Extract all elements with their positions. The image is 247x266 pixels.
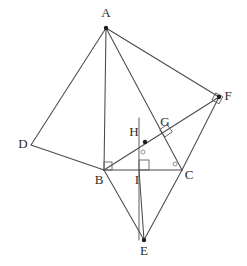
vertex-labels-group: ABCDEFGHI xyxy=(18,5,231,258)
segment-AF xyxy=(106,28,219,97)
vertex-label-F: F xyxy=(224,88,231,103)
vertex-label-E: E xyxy=(140,243,148,258)
geometry-figure: ABCDEFGHI xyxy=(0,0,247,266)
geometry-canvas: ABCDEFGHI xyxy=(0,0,247,266)
vertex-label-D: D xyxy=(18,136,27,151)
segment-DB xyxy=(31,145,104,170)
segments-group xyxy=(31,28,219,240)
vertex-label-H: H xyxy=(129,124,138,139)
angle-mark-right-angle-at-I xyxy=(139,160,149,170)
segment-FC xyxy=(182,97,219,170)
segment-AB xyxy=(104,28,106,170)
segment-AD xyxy=(31,28,106,145)
angle-mark-angle-dot-at-C xyxy=(173,162,177,166)
segment-IE xyxy=(139,170,144,240)
vertex-dot-H xyxy=(143,140,147,144)
vertex-dot-A xyxy=(104,26,108,30)
segment-CE xyxy=(144,170,182,240)
vertex-label-B: B xyxy=(95,172,104,187)
vertex-label-I: I xyxy=(135,172,139,187)
vertex-label-A: A xyxy=(101,5,111,20)
vertex-dot-F xyxy=(217,95,221,99)
vertex-dot-E xyxy=(142,238,146,242)
vertex-label-G: G xyxy=(160,114,169,129)
segment-AC xyxy=(106,28,182,170)
angle-mark-angle-dot-at-H xyxy=(141,150,145,154)
segment-BF xyxy=(104,97,219,170)
vertex-label-C: C xyxy=(185,167,194,182)
